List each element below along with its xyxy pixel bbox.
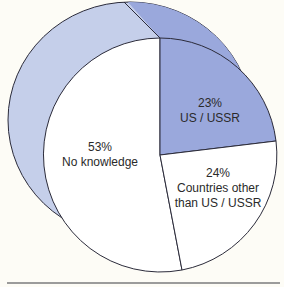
label-other-pct: 24% bbox=[175, 166, 262, 181]
label-no-knowledge-pct: 53% bbox=[62, 140, 138, 155]
bottom-rule bbox=[7, 282, 280, 284]
label-no-knowledge-name: No knowledge bbox=[62, 155, 138, 170]
label-us-ussr-pct: 23% bbox=[180, 96, 240, 111]
label-other-countries: 24% Countries other than US / USSR bbox=[175, 166, 262, 211]
label-other-name-1: Countries other bbox=[175, 181, 262, 196]
label-us-ussr: 23% US / USSR bbox=[180, 96, 240, 126]
pie-chart bbox=[0, 0, 284, 287]
label-no-knowledge: 53% No knowledge bbox=[62, 140, 138, 170]
label-other-name-2: than US / USSR bbox=[175, 196, 262, 211]
label-us-ussr-name: US / USSR bbox=[180, 111, 240, 126]
